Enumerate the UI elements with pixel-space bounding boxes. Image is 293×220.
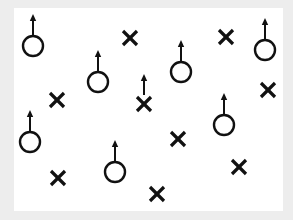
arrow-up-icon [262,18,268,39]
x-mark-icon [261,83,275,97]
arrow-up-icon [221,93,227,114]
x-mark-icon [150,187,164,201]
circle-icon [20,132,40,152]
x-mark-icon [50,93,64,107]
offense-player-marker [105,140,125,182]
defense-player-marker [171,132,185,146]
x-mark-icon [51,171,65,185]
defense-player-marker [232,160,246,174]
x-mark-icon [137,97,151,111]
x-mark-icon [171,132,185,146]
arrow-up-icon [141,74,147,95]
defense-player-marker [150,187,164,201]
arrow-up-icon [178,40,184,61]
offense-player-marker [255,18,275,60]
circle-icon [214,115,234,135]
arrow-up-icon [95,50,101,71]
defense-player-marker [219,30,233,44]
defense-player-marker [261,83,275,97]
circle-icon [88,72,108,92]
x-mark-icon [123,31,137,45]
offense-player-marker [20,110,40,152]
circle-icon [105,162,125,182]
defense-player-marker [50,93,64,107]
offense-player-marker [171,40,191,82]
play-diagram [0,0,293,220]
offense-player-marker [23,14,43,56]
arrow-up-icon [30,14,36,35]
arrow-up-icon [27,110,33,131]
defense-player-marker [51,171,65,185]
arrow-up-icon [112,140,118,161]
circle-icon [255,40,275,60]
x-mark-icon [232,160,246,174]
offense-player-marker [88,50,108,92]
x-mark-icon [219,30,233,44]
defense-player-marker [123,31,137,45]
defense-player-marker [137,74,151,111]
circle-icon [23,36,43,56]
offense-player-marker [214,93,234,135]
circle-icon [171,62,191,82]
